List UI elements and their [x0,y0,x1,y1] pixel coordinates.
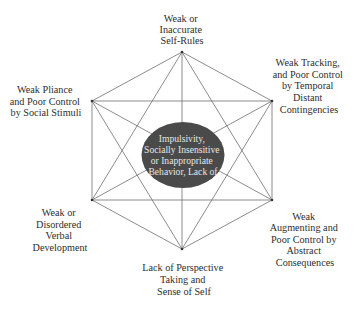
node-label-line: Weak Pliance [17,84,73,95]
center-label-line: Socially Insensitive [144,144,219,155]
node-label-bottom: Lack of Perspective Taking and Sense of … [142,262,225,297]
edge-bottom-lower-left [92,200,182,249]
center-label-line: Impulsivity, [159,133,205,144]
node-label-line: Consequences [276,257,334,268]
edge-lower-right-bottom [182,200,272,249]
node-label-line: Distant [293,92,323,103]
node-label-line: Development [33,242,88,253]
node-label-lower-right: Weak Augmenting and Poor Control by Abst… [270,211,341,268]
center-node: Impulsivity, Socially Insensitive or Ina… [142,122,225,188]
vertex-upper-left [91,100,94,103]
node-label-line: Augmenting and [270,222,338,233]
vertex-top [181,51,184,54]
vertex-lower-left [91,199,94,202]
node-label-line: Weak [292,211,316,222]
node-label-upper-left: Weak Pliance and Poor Control by Social … [10,84,83,118]
node-label-line: Taking and [160,274,205,285]
node-label-upper-right: Weak Tracking, and Poor Control by Tempo… [273,57,346,115]
node-label-lower-left: Weak or Disordered Verbal Development [33,207,88,253]
node-label-line: Disordered [36,219,81,230]
node-label-line: Inaccurate [160,24,203,35]
center-label-line: Behavior, Lack of [148,166,218,177]
node-label-line: Poor Control by [271,234,338,245]
node-label-line: Self-Rules [160,35,203,46]
node-label-line: and Poor Control [10,96,80,107]
node-label-line: Weak or [42,207,77,218]
node-label-line: Lack of Perspective [142,262,223,273]
node-label-line: Weak or [164,13,199,24]
center-label-line: or Inappropriate [151,155,213,166]
node-label-line: Verbal [45,230,72,241]
edge-top-upper-right [182,52,272,101]
hexagon-network-diagram: Impulsivity, Socially Insensitive or Ina… [0,0,363,319]
vertex-lower-right [271,199,274,202]
vertex-upper-right [271,100,274,103]
node-label-line: by Temporal [282,80,334,91]
node-label-top: Weak or Inaccurate Self-Rules [160,13,205,46]
node-label-line: Contingencies [280,104,338,115]
node-label-line: by Social Stimuli [11,107,82,118]
edge-upper-left-top [92,52,182,101]
node-label-line: Abstract [286,245,321,256]
vertex-bottom [181,248,184,251]
node-label-line: Weak Tracking, [276,57,340,68]
node-label-line: Sense of Self [157,286,211,297]
node-label-line: and Poor Control [273,69,343,80]
